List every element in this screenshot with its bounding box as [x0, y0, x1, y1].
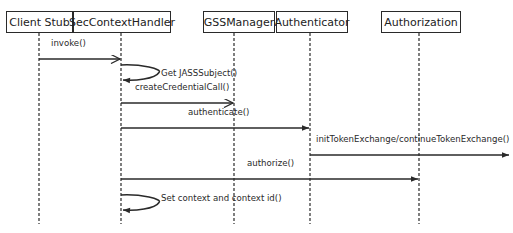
message-label-authorize: authorize() — [247, 158, 294, 168]
message-label-get-jass-subject: Get JASSSubject() — [161, 68, 237, 78]
sequence-diagram: Client Stub SecContextHandler GSSManager… — [0, 0, 513, 233]
participant-label: Client Stub — [9, 16, 70, 29]
participant-gss-manager: GSSManager — [203, 11, 275, 33]
message-label-authenticate: authenticate() — [188, 107, 249, 117]
participant-label: Authenticator — [274, 16, 349, 29]
participant-authenticator: Authenticator — [276, 11, 348, 33]
self-message-arrow — [121, 65, 159, 80]
participant-sec-context-handler: SecContextHandler — [73, 11, 171, 33]
message-label-create-credential-call: createCredentialCall() — [135, 82, 229, 92]
message-label-invoke: invoke() — [51, 38, 86, 48]
message-label-set-context: Set context and context id() — [161, 193, 282, 203]
participant-client-stub: Client Stub — [6, 11, 73, 33]
participant-label: SecContextHandler — [69, 16, 175, 29]
message-label-token-exchange: initTokenExchange/continueTokenExchange(… — [316, 134, 509, 144]
self-message-arrow — [121, 195, 159, 210]
participant-label: Authorization — [384, 16, 458, 29]
participant-authorization: Authorization — [381, 11, 461, 33]
participant-label: GSSManager — [204, 16, 275, 29]
